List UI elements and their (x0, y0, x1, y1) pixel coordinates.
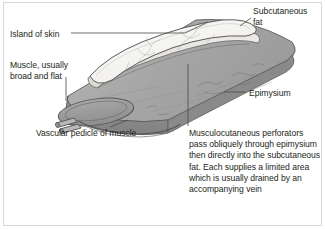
label-island-of-skin: Island of skin (10, 29, 59, 40)
label-vascular-pedicle: Vascular pedicle of muscle (36, 128, 136, 139)
label-muscle: Muscle, usually broad and flat (10, 60, 68, 81)
label-epimysium: Epimysium (249, 88, 291, 99)
anatomy-figure: Island of skin Muscle, usually broad and… (0, 0, 325, 229)
label-subcutaneous-fat: Subcutaneous fat (253, 6, 307, 27)
caption-perforators: Musculocutaneous perforators pass obliqu… (189, 128, 321, 195)
